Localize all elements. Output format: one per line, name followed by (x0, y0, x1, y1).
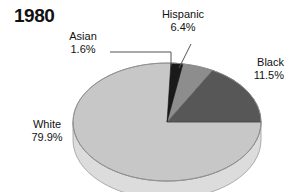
slice-label-asian-name: Asian (56, 30, 110, 43)
slice-label-black-name: Black (222, 56, 284, 69)
slice-label-white: White 79.9% (16, 118, 78, 145)
pie-chart-figure: 1980 Asian 1.6% Hispanic 6.4% Black 11.5… (0, 0, 303, 192)
slice-label-asian: Asian 1.6% (56, 30, 110, 57)
slice-label-black-value: 11.5% (222, 69, 284, 82)
slice-label-black: Black 11.5% (222, 56, 284, 83)
slice-label-hispanic: Hispanic 6.4% (148, 8, 218, 35)
slice-label-white-value: 79.9% (16, 131, 78, 144)
slice-label-hispanic-name: Hispanic (148, 8, 218, 21)
slice-label-hispanic-value: 6.4% (148, 21, 218, 34)
slice-label-asian-value: 1.6% (56, 43, 110, 56)
slice-label-white-name: White (16, 118, 78, 131)
